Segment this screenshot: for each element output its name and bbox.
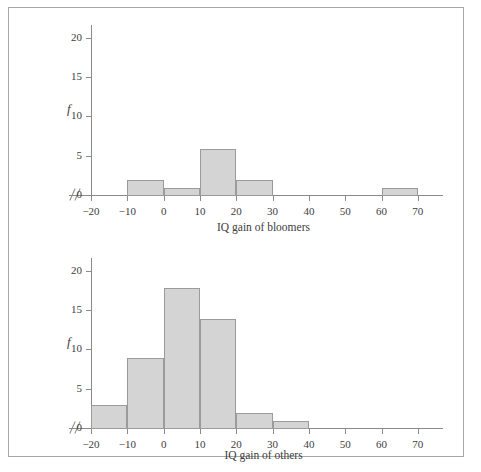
x-axis-tick xyxy=(91,429,92,434)
histogram-bar xyxy=(164,288,200,429)
x-axis-tick xyxy=(127,196,128,201)
y-axis-tick-label: 10 xyxy=(71,108,82,123)
x-axis-tick-label: 20 xyxy=(231,204,242,218)
y-axis-tick-label: 5 xyxy=(77,381,83,396)
plot-area-bloomers: 05101520−20−10010203040506070 xyxy=(91,31,436,196)
x-axis-tick-label: 70 xyxy=(412,204,423,218)
y-axis-tick: 5 xyxy=(86,389,91,390)
x-axis-tick xyxy=(236,429,237,434)
y-axis-tick-label: 20 xyxy=(71,30,82,45)
histogram-others: f 05101520−20−10010203040506070 IQ gain … xyxy=(9,246,465,456)
y-axis-line xyxy=(91,25,92,196)
y-axis-tick: 10 xyxy=(86,349,91,350)
x-axis-tick-label: 30 xyxy=(267,204,278,218)
x-axis-tick xyxy=(164,196,165,201)
x-axis-tick xyxy=(309,196,310,201)
x-axis-label: IQ gain of others xyxy=(91,449,436,461)
x-axis-tick xyxy=(345,196,346,201)
histogram-bar xyxy=(236,413,272,429)
x-axis-tick-label: 0 xyxy=(161,204,167,218)
histogram-bar xyxy=(200,149,236,196)
histogram-bloomers: f 05101520−20−10010203040506070 IQ gain … xyxy=(9,13,465,228)
x-axis-tick-label: 10 xyxy=(194,204,205,218)
histogram-bar xyxy=(382,188,418,196)
x-axis-tick-label: 60 xyxy=(376,204,387,218)
x-axis-tick xyxy=(127,429,128,434)
y-axis-tick: 20 xyxy=(86,38,91,39)
y-axis-tick-label: 10 xyxy=(71,341,82,356)
histogram-bar xyxy=(200,319,236,429)
histogram-bar xyxy=(127,180,163,196)
y-axis-line xyxy=(91,258,92,429)
x-axis-tick-label: 50 xyxy=(340,204,351,218)
y-axis-tick: 5 xyxy=(86,156,91,157)
x-axis-tick xyxy=(200,196,201,201)
histogram-bar xyxy=(273,421,309,429)
x-axis-tick xyxy=(91,196,92,201)
histogram-bar xyxy=(164,188,200,196)
y-axis-tick-label: 5 xyxy=(77,148,83,163)
x-axis-tick xyxy=(273,429,274,434)
y-axis-tick-label: 0 xyxy=(77,420,83,435)
x-axis-tick xyxy=(236,196,237,201)
y-axis-tick: 15 xyxy=(86,77,91,78)
x-axis-tick xyxy=(164,429,165,434)
y-axis-tick-label: 20 xyxy=(71,263,82,278)
histogram-bar xyxy=(91,405,127,429)
histogram-bar xyxy=(236,180,272,196)
plot-area-others: 05101520−20−10010203040506070 xyxy=(91,264,436,429)
y-axis-tick: 15 xyxy=(86,310,91,311)
x-axis-tick xyxy=(382,429,383,434)
x-axis-tick-label: −10 xyxy=(119,204,136,218)
y-axis-tick: 10 xyxy=(86,116,91,117)
y-axis-tick-label: 15 xyxy=(71,69,82,84)
x-axis-label: IQ gain of bloomers xyxy=(91,221,436,233)
x-axis-tick xyxy=(382,196,383,201)
x-axis-tick xyxy=(418,429,419,434)
histogram-bar xyxy=(127,358,163,429)
x-axis-tick-label: −20 xyxy=(82,204,99,218)
x-axis-tick xyxy=(418,196,419,201)
y-axis-tick-label: 15 xyxy=(71,302,82,317)
y-axis-tick: 20 xyxy=(86,271,91,272)
y-axis-tick-label: 0 xyxy=(77,187,83,202)
x-axis-tick xyxy=(345,429,346,434)
x-axis-tick xyxy=(273,196,274,201)
x-axis-tick xyxy=(200,429,201,434)
figure-frame: f 05101520−20−10010203040506070 IQ gain … xyxy=(8,7,464,457)
x-axis-tick xyxy=(309,429,310,434)
x-axis-tick-label: 40 xyxy=(303,204,314,218)
